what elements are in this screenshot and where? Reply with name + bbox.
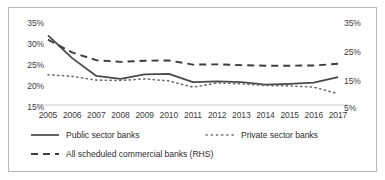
x-axis-tick-2009: 2009 xyxy=(132,110,158,120)
left-axis-tick-30: 30% xyxy=(18,39,44,49)
legend-item-private-sector-banks: Private sector banks xyxy=(205,130,318,140)
left-axis-tick-20: 20% xyxy=(18,81,44,91)
series-line-all-scheduled-commercial-banks-rhs xyxy=(48,40,338,66)
left-axis-tick-35: 35% xyxy=(18,18,44,28)
plot-area: 35% 30% 25% 20% 15% 35% 25% 15% 5% 20052… xyxy=(0,0,385,180)
series-line-public-sector-banks xyxy=(48,35,338,84)
legend-label-private-sector-banks: Private sector banks xyxy=(241,130,318,140)
x-axis-tick-2007: 2007 xyxy=(83,110,109,120)
right-axis-tick-25: 25% xyxy=(344,47,370,57)
x-axis-tick-2017: 2017 xyxy=(325,110,351,120)
chart-figure: 35% 30% 25% 20% 15% 35% 25% 15% 5% 20052… xyxy=(0,0,385,180)
x-axis-tick-2008: 2008 xyxy=(108,110,134,120)
left-axis-tick-25: 25% xyxy=(18,60,44,70)
legend-label-public-sector-banks: Public sector banks xyxy=(66,130,140,140)
legend-swatch-dashed-line xyxy=(30,150,60,158)
legend-swatch-dotted-line xyxy=(205,131,235,139)
x-axis-tick-2011: 2011 xyxy=(180,110,206,120)
x-axis-tick-2005: 2005 xyxy=(35,110,61,120)
x-axis-tick-2012: 2012 xyxy=(204,110,230,120)
right-axis-tick-15: 15% xyxy=(344,76,370,86)
x-axis-tick-2010: 2010 xyxy=(156,110,182,120)
x-axis-tick-2014: 2014 xyxy=(253,110,279,120)
legend-swatch-solid-line xyxy=(30,131,60,139)
x-axis-tick-2015: 2015 xyxy=(277,110,303,120)
legend-item-public-sector-banks: Public sector banks xyxy=(30,130,140,140)
right-axis-tick-35: 35% xyxy=(344,18,370,28)
x-axis-tick-2016: 2016 xyxy=(301,110,327,120)
x-axis-tick-2013: 2013 xyxy=(228,110,254,120)
legend-label-all-scheduled-commercial-banks: All scheduled commercial banks (RHS) xyxy=(66,149,213,159)
x-axis-tick-2006: 2006 xyxy=(59,110,85,120)
legend-item-all-scheduled-commercial-banks: All scheduled commercial banks (RHS) xyxy=(30,149,213,159)
